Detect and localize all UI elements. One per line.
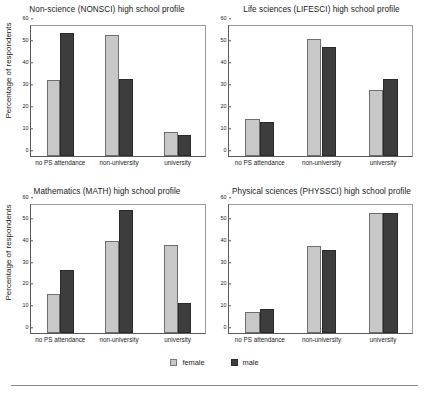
y-axis-tick-label: 20 [23, 282, 32, 287]
bar-male-no-PS-attendance [260, 122, 274, 156]
bar-male-no-PS-attendance [260, 309, 274, 333]
y-axis-tick-label: 40 [221, 60, 230, 65]
y-axis-tick-mark [31, 62, 33, 63]
y-axis-tick-label: 0 [224, 325, 230, 330]
plot-area: 0102030405060no PS attendancenon-univers… [228, 204, 413, 334]
bar-female-university [369, 213, 383, 333]
chart-panel-physsci: Physical sciences (PHYSSCI) high school … [214, 182, 429, 360]
legend-entry-female: female [170, 358, 204, 367]
plot-area: 0102030405060no PS attendancenon-univers… [228, 25, 413, 157]
y-axis-tick-mark [31, 128, 33, 129]
y-axis-tick-label: 50 [23, 38, 32, 43]
figure-panel-grid: Non-science (NONSCI) high school profile… [0, 0, 429, 395]
y-axis-tick-label: 60 [221, 16, 230, 21]
y-axis-tick-mark [31, 219, 33, 220]
bar-group [229, 26, 412, 156]
y-axis-tick-label: 30 [23, 82, 32, 87]
chart-panel-lifesci: Life sciences (LIFESCI) high school prof… [214, 0, 429, 182]
y-axis-tick-mark [229, 305, 231, 306]
y-axis-tick-label: 0 [224, 148, 230, 153]
bar-male-non-university [322, 47, 336, 156]
bar-female-no-PS-attendance [245, 312, 259, 333]
y-axis-tick-mark [229, 18, 231, 19]
x-axis-tick-label: non-university [99, 336, 138, 343]
legend-swatch-female-icon [170, 359, 177, 366]
y-axis-tick-label: 50 [221, 38, 230, 43]
x-axis-tick-label: non-university [99, 159, 138, 166]
bar-female-university [164, 132, 178, 156]
y-axis-tick-mark [31, 197, 33, 198]
y-axis-tick-label: 40 [23, 60, 32, 65]
y-axis-tick-mark [229, 62, 231, 63]
bar-male-non-university [322, 250, 336, 333]
bar-female-non-university [307, 39, 321, 156]
bar-male-non-university [119, 79, 133, 156]
y-axis-tick-mark [229, 327, 231, 328]
x-axis-tick-label: non-university [302, 159, 341, 166]
bar-group [31, 205, 205, 333]
bar-group [229, 205, 412, 333]
chart-title: Physical sciences (PHYSSCI) high school … [214, 187, 429, 197]
y-axis-tick-mark [31, 106, 33, 107]
y-axis-tick-label: 60 [23, 16, 32, 21]
y-axis-tick-label: 30 [23, 260, 32, 265]
legend-entry-male: male [231, 358, 259, 367]
bar-female-no-PS-attendance [47, 294, 61, 333]
y-axis-tick-label: 10 [221, 303, 230, 308]
bar-male-university [178, 303, 192, 333]
y-axis-tick-mark [229, 106, 231, 107]
chart-title: Mathematics (MATH) high school profile [0, 187, 214, 197]
y-axis-tick-label: 0 [26, 325, 32, 330]
y-axis-label-text: Percentage of respondents [4, 22, 13, 118]
y-axis-tick-label: 10 [23, 303, 32, 308]
y-axis-tick-mark [31, 305, 33, 306]
legend-label-female: female [182, 358, 204, 367]
y-axis-tick-label: 20 [221, 104, 230, 109]
x-axis-tick-label: no PS attendance [235, 336, 285, 343]
y-axis-tick-label: 0 [26, 148, 32, 153]
y-axis-tick-mark [229, 284, 231, 285]
bar-female-no-PS-attendance [47, 80, 61, 156]
y-axis-tick-mark [229, 219, 231, 220]
y-axis-tick-label: 10 [23, 126, 32, 131]
y-axis-tick-label: 40 [221, 238, 230, 243]
y-axis-tick-mark [229, 128, 231, 129]
y-axis-label: Percentage of respondents [2, 0, 14, 140]
y-axis-tick-label: 30 [221, 260, 230, 265]
x-axis-tick-label: no PS attendance [35, 159, 85, 166]
bar-male-no-PS-attendance [60, 33, 74, 156]
x-axis-tick-label: no PS attendance [35, 336, 85, 343]
x-axis-tick-label: non-university [302, 336, 341, 343]
bar-female-university [164, 245, 178, 333]
y-axis-tick-mark [31, 240, 33, 241]
y-axis-tick-label: 50 [221, 217, 230, 222]
y-axis-tick-mark [31, 40, 33, 41]
x-axis-tick-label: no PS attendance [235, 159, 285, 166]
y-axis-tick-mark [229, 84, 231, 85]
y-axis-tick-mark [31, 262, 33, 263]
bar-female-non-university [307, 246, 321, 333]
bar-male-university [383, 79, 397, 156]
bar-male-university [178, 135, 192, 156]
x-axis-tick-label: university [370, 159, 397, 166]
plot-area: 0102030405060no PS attendancenon-univers… [30, 25, 206, 157]
legend-label-male: male [243, 358, 259, 367]
x-axis-tick-label: university [370, 336, 397, 343]
y-axis-tick-mark [229, 150, 231, 151]
y-axis-tick-label: 30 [221, 82, 230, 87]
bar-female-non-university [105, 241, 119, 333]
y-axis-tick-mark [229, 262, 231, 263]
y-axis-tick-mark [31, 18, 33, 19]
y-axis-tick-label: 60 [23, 195, 32, 200]
bar-male-university [383, 213, 397, 333]
y-axis-tick-label: 20 [23, 104, 32, 109]
bar-female-no-PS-attendance [245, 119, 259, 156]
y-axis-tick-mark [229, 197, 231, 198]
y-axis-tick-mark [229, 40, 231, 41]
chart-panel-math: Mathematics (MATH) high school profile P… [0, 182, 214, 360]
y-axis-label: Percentage of respondents [2, 182, 14, 322]
y-axis-label-text: Percentage of respondents [4, 204, 13, 300]
y-axis-tick-mark [31, 327, 33, 328]
footer-divider [11, 385, 418, 386]
y-axis-tick-mark [31, 284, 33, 285]
